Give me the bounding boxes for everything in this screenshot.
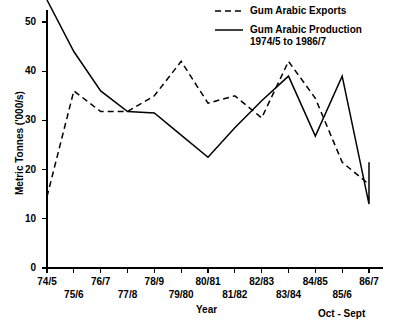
- y-tick-label-0: 0: [14, 262, 36, 273]
- y-tick-label-20: 20: [14, 164, 36, 175]
- series-line-exports: [47, 61, 369, 196]
- x-tick-label-78-9: 78/9: [137, 276, 171, 287]
- legend-label-production: Gum Arabic Production: [250, 24, 362, 35]
- y-axis-title: Metric Tonnes ('000/s): [14, 91, 25, 195]
- x-tick-label-84-85: 84/85: [298, 276, 332, 287]
- x-tick-label-86-7: 86/7: [352, 276, 386, 287]
- x-tick-label-76-7: 76/7: [84, 276, 118, 287]
- legend-label-production-range: 1974/5 to 1986/7: [250, 36, 326, 47]
- x-tick-label-85-6: 85/6: [325, 289, 359, 300]
- y-tick-label-10: 10: [14, 213, 36, 224]
- x-tick-label-81-82: 81/82: [218, 289, 252, 300]
- x-tick-label-77-8: 77/8: [111, 289, 145, 300]
- legend-line-samples: [215, 11, 243, 30]
- x-axis-footnote: Oct - Sept: [318, 308, 365, 319]
- y-tick-label-50: 50: [14, 16, 36, 27]
- x-axis-title: Year: [196, 304, 217, 315]
- y-tick-label-40: 40: [14, 65, 36, 76]
- x-tick-label-79-80: 79/80: [164, 289, 198, 300]
- line-chart-canvas: [0, 0, 395, 323]
- y-tick-label-30: 30: [14, 114, 36, 125]
- legend-label-exports: Gum Arabic Exports: [250, 5, 346, 16]
- x-tick-label-82-83: 82/83: [245, 276, 279, 287]
- x-tick-label-74-5: 74/5: [30, 276, 64, 287]
- x-tick-label-83-84: 83/84: [272, 289, 306, 300]
- x-tick-label-80-81: 80/81: [191, 276, 225, 287]
- x-tick-label-75-6: 75/6: [57, 289, 91, 300]
- chart-figure: Gum Arabic Exports Gum Arabic Production…: [0, 0, 395, 323]
- chart-axes: [47, 10, 383, 268]
